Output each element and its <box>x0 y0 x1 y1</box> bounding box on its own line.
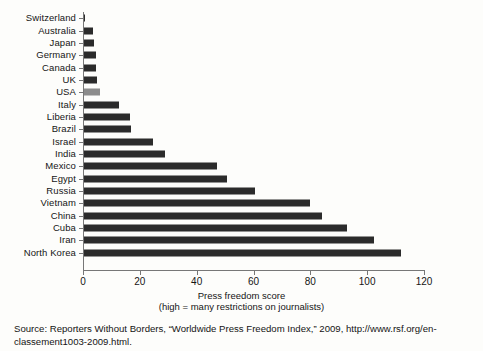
x-axis-tick <box>254 270 255 275</box>
x-axis-tick <box>83 270 84 275</box>
x-axis-tick-label: 60 <box>248 276 259 287</box>
x-axis-tick-label: 40 <box>191 276 202 287</box>
press-freedom-bar-chart-figure: SwitzerlandAustraliaJapanGermanyCanadaUK… <box>0 0 483 351</box>
x-axis-tick-label: 100 <box>359 276 376 287</box>
x-axis-tick <box>197 270 198 275</box>
x-axis-tick <box>367 270 368 275</box>
x-axis-tick <box>424 270 425 275</box>
x-axis-title: Press freedom score <box>0 290 483 301</box>
x-axis-tick-label: 120 <box>416 276 433 287</box>
x-axis-subtitle: (high = many restrictions on journalists… <box>0 301 483 312</box>
source-note: Source: Reporters Without Borders, “Worl… <box>14 322 472 348</box>
x-axis-tick-label: 0 <box>80 276 86 287</box>
x-axis-tick <box>140 270 141 275</box>
x-axis-tick-label: 20 <box>134 276 145 287</box>
x-axis-tick <box>310 270 311 275</box>
x-axis-tick-label: 80 <box>305 276 316 287</box>
